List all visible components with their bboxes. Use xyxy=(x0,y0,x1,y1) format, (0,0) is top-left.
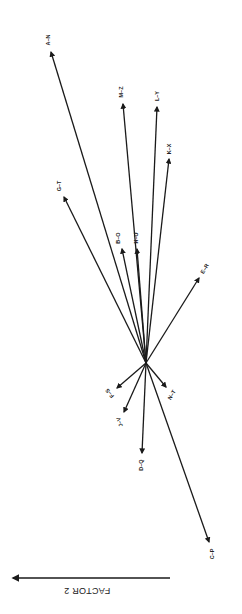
factor-2-axis-label: FACTOR 2 xyxy=(64,586,110,596)
vector-group xyxy=(51,52,209,542)
factor-axis: FACTOR 2 xyxy=(13,578,170,596)
vector-arrow-h-u xyxy=(137,249,146,363)
vector-arrow-b-o xyxy=(122,249,146,363)
vector-label-g-t: G–T xyxy=(56,180,62,191)
vector-label-j-v: J–V xyxy=(115,416,124,428)
vector-arrow-n-t xyxy=(146,363,166,387)
vector-label-c-p: C–P xyxy=(209,548,215,559)
vector-arrow-l-y xyxy=(146,107,157,363)
vector-label-a-n: A–N xyxy=(45,34,51,45)
vector-label-d-q: D–Q xyxy=(138,459,144,471)
vector-label-e-r: E–R xyxy=(199,263,210,275)
vector-arrow-c-p xyxy=(146,363,209,542)
vector-label-b-o: B–O xyxy=(115,232,121,244)
vector-label-l-y: L–Y xyxy=(154,91,160,101)
vector-label-group: A–NM–ZL–YK–XG–TB–OH–UE–RF–SJ–VD–QN–TC–P xyxy=(45,34,215,559)
factor-vector-diagram: A–NM–ZL–YK–XG–TB–OH–UE–RF–SJ–VD–QN–TC–P … xyxy=(0,0,242,614)
vector-arrow-d-q xyxy=(142,363,146,453)
vector-label-f-s: F–S xyxy=(104,387,115,399)
vector-arrow-f-s xyxy=(117,363,146,388)
vector-label-n-t: N–T xyxy=(166,388,177,401)
vector-arrow-j-v xyxy=(124,363,146,412)
vector-label-m-z: M–Z xyxy=(118,86,124,98)
vector-label-h-u: H–U xyxy=(133,232,139,243)
vector-label-k-x: K–X xyxy=(166,143,172,154)
